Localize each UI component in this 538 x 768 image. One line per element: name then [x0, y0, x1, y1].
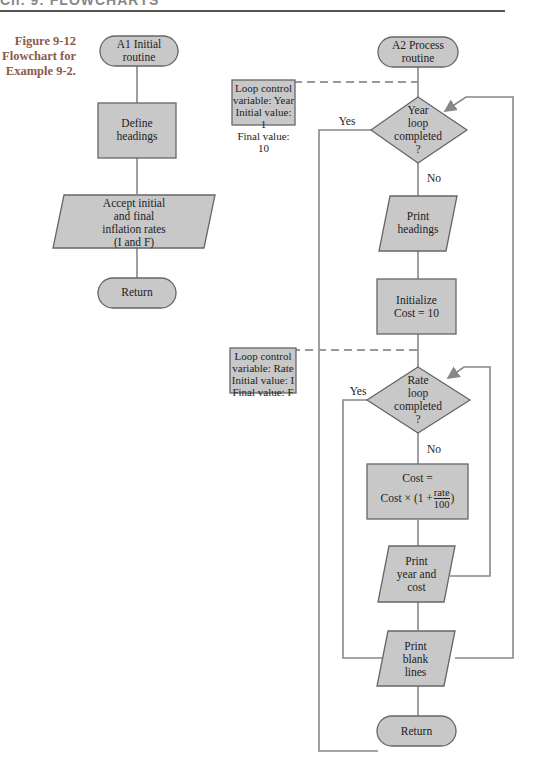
cost-calc-label: Cost = Cost × (1 + rate 100 ): [367, 472, 468, 510]
year-no-label: No: [424, 172, 444, 185]
right-start-label: A2 Processroutine: [378, 39, 458, 65]
right-return-label: Return: [377, 725, 456, 738]
left-start-label: A1 Initialroutine: [100, 38, 178, 64]
print-blank-label: Printblanklines: [382, 640, 449, 679]
print-headings-label: Printheadings: [384, 210, 452, 236]
year-note-label: Loop controlvariable: Year Initial value…: [232, 82, 295, 154]
rate-no-label: No: [424, 443, 444, 456]
print-year-cost-label: Printyear andcost: [383, 555, 450, 594]
rate-note-label: Loop controlvariable: Rate Initial value…: [230, 350, 296, 398]
define-headings-label: Defineheadings: [98, 117, 176, 143]
left-return-label: Return: [98, 286, 176, 299]
cost-formula: Cost × (1 + rate 100 ): [367, 487, 468, 510]
accept-rates-label: Accept initialand final inflation rates(…: [58, 197, 210, 249]
year-yes-label: Yes: [332, 115, 362, 128]
rate-decision-label: Rateloop completed?: [378, 374, 458, 426]
rate-yes-label: Yes: [343, 385, 373, 398]
year-decision-label: Yearloop completed?: [378, 104, 458, 156]
init-cost-label: InitializeCost = 10: [377, 294, 456, 320]
